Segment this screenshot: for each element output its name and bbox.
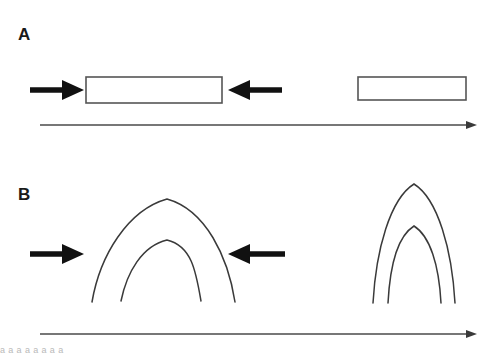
compression-arrow-right-a bbox=[228, 80, 282, 100]
panel-b: B bbox=[18, 184, 477, 338]
deformation-figure: A B bbox=[0, 0, 489, 353]
time-axis-panel-b bbox=[40, 330, 477, 338]
figure-canvas: A B bbox=[0, 0, 489, 353]
panel-b-label: B bbox=[18, 185, 30, 204]
original-layer-block bbox=[358, 77, 466, 100]
compression-arrow-left-b bbox=[30, 244, 84, 264]
open-fold-outer-arch bbox=[92, 199, 235, 302]
tight-fold-inner-arch bbox=[388, 226, 441, 303]
compression-arrow-left-a bbox=[30, 80, 84, 100]
shortened-layer-block bbox=[86, 77, 222, 103]
compression-arrow-right-b bbox=[228, 244, 285, 264]
open-fold-inner-arch bbox=[121, 240, 201, 301]
panel-a-label: A bbox=[18, 25, 30, 44]
clipped-caption-fragment: a a a a a a a a bbox=[0, 345, 489, 353]
time-axis-panel-a bbox=[40, 121, 477, 129]
panel-a: A bbox=[18, 25, 477, 129]
tight-fold-outer-arch bbox=[373, 184, 455, 303]
